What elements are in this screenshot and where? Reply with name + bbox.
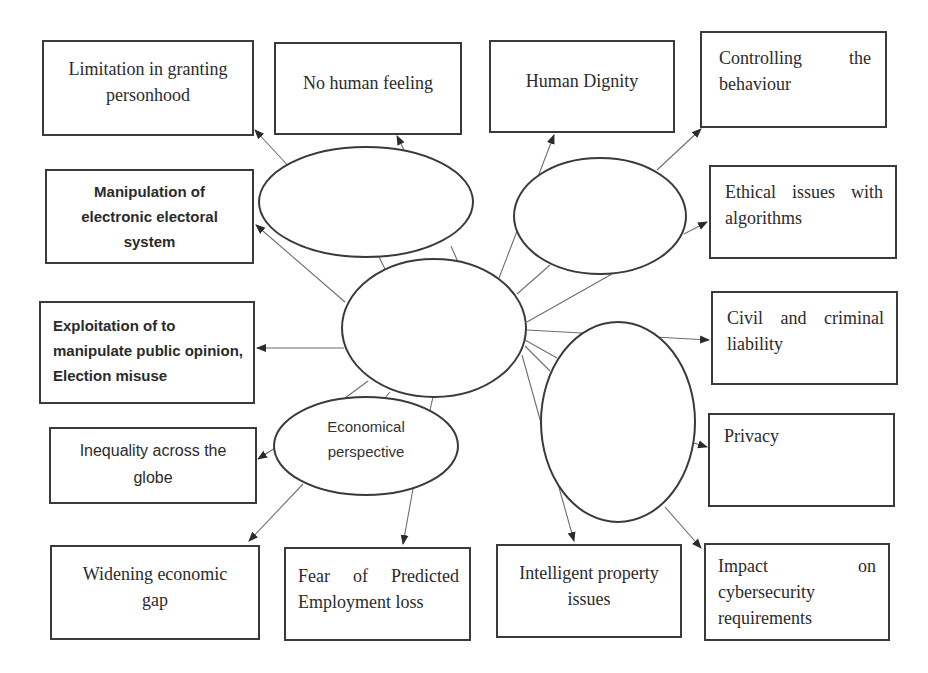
box-civil-criminal-liability: Civil and criminal liability [711,291,898,385]
box-manipulation-electoral: Manipulation of electronic electoral sys… [45,169,254,264]
connector-to-ethical [684,222,707,234]
ellipse-top-right [514,158,686,274]
box-intelligent-property: Intelligent property issues [496,544,682,638]
box-limitation-personhood: Limitation in granting personhood [42,40,254,136]
connector-to-employment-loss [403,489,413,544]
box-inequality-globe-text: Inequality across the globe [80,442,227,486]
connector-to-privacy [694,443,707,447]
economical-perspective-label: Economical perspective [296,414,436,464]
connector-center-economic-3 [430,397,433,410]
connector-to-cybersecurity [665,507,701,548]
box-widening-economic-gap-text: Widening economic gap [83,564,228,610]
economical-perspective-line1: Economical [296,414,436,439]
box-intelligent-property-text: Intelligent property issues [519,563,658,609]
ellipse-right [541,322,695,522]
box-employment-loss-text: Fear of Predicted Employment loss [298,566,459,612]
ellipse-top-left [259,147,473,257]
connector-center-right-1 [525,340,557,358]
connector-center-top-right-1 [517,265,550,294]
box-cybersecurity-impact-text: Impact on cybersecurity requirements [718,556,876,628]
box-human-dignity-text: Human Dignity [526,71,639,91]
box-exploitation-public-opinion-text: Exploitation of to manipulate public opi… [53,317,243,384]
box-controlling-behaviour: Controlling the behaviour [700,31,887,128]
box-ethical-algorithms-text: Ethical issues with algorithms [725,182,883,228]
connector-center-economic-1 [345,381,368,398]
box-no-human-feeling: No human feeling [274,42,462,135]
box-manipulation-electoral-text: Manipulation of electronic electoral sys… [81,183,218,250]
box-civil-criminal-liability-text: Civil and criminal liability [727,308,884,354]
box-controlling-behaviour-text: Controlling the behaviour [719,48,871,94]
box-no-human-feeling-text: No human feeling [303,73,433,93]
box-limitation-personhood-text: Limitation in granting personhood [69,59,228,105]
connector-to-controlling [657,129,701,170]
box-privacy-text: Privacy [724,426,779,446]
connector-to-no-human-feeling [397,136,404,150]
box-exploitation-public-opinion: Exploitation of to manipulate public opi… [39,301,255,404]
box-employment-loss: Fear of Predicted Employment loss [284,547,471,641]
box-privacy: Privacy [708,413,895,507]
box-cybersecurity-impact: Impact on cybersecurity requirements [704,543,890,641]
connector-to-widening-gap [249,484,303,541]
box-inequality-globe: Inequality across the globe [49,427,257,504]
mind-map-diagram: Economical perspective Limitation in gra… [0,0,928,673]
ellipse-center [342,259,526,397]
connector-center-top-right-2 [527,274,612,322]
economical-perspective-line2: perspective [296,439,436,464]
box-widening-economic-gap: Widening economic gap [50,545,260,640]
box-ethical-algorithms: Ethical issues with algorithms [709,165,897,259]
box-human-dignity: Human Dignity [489,40,675,133]
connector-to-inequality [258,448,275,459]
connector-to-limitation [255,130,292,170]
connector-center-right-2 [525,346,550,371]
